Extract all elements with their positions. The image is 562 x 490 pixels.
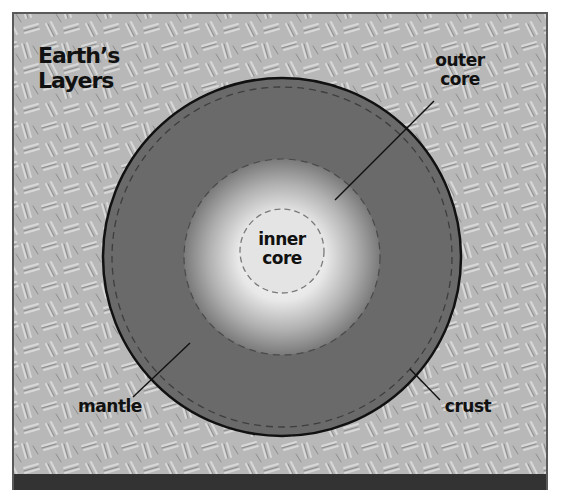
inner-core-label-line-2: core <box>240 249 324 268</box>
diagram-title: Earth’s Layers <box>38 43 119 93</box>
label-crust: crust <box>438 397 498 416</box>
inner-core-label-line-1: inner <box>240 230 324 249</box>
mantle-label: mantle <box>72 397 148 416</box>
label-outer-core: outer core <box>430 51 490 89</box>
outer-core-label-line-2: core <box>430 70 490 89</box>
outer-core-label-line-1: outer <box>430 51 490 70</box>
label-inner-core: inner core <box>240 230 324 268</box>
crust-label: crust <box>438 397 498 416</box>
title-line-2: Layers <box>38 68 119 93</box>
title-line-1: Earth’s <box>38 43 119 68</box>
label-mantle: mantle <box>72 397 148 416</box>
